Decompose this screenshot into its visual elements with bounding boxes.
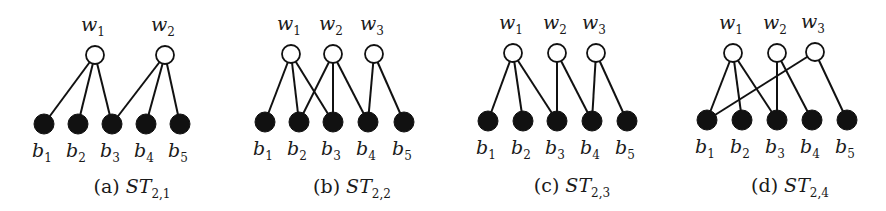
black-node-b1 — [478, 111, 498, 131]
black-node-label: b4 — [356, 137, 376, 163]
bipartite-graph-figure: w1w2b1b2b3b4b5(a) ST2,1 w1w2w3b1b2b3b4b5… — [0, 0, 886, 211]
black-node-label: b4 — [134, 139, 154, 165]
black-node-b5 — [837, 110, 857, 130]
white-node-label: w1 — [81, 13, 105, 39]
black-node-label: b4 — [800, 135, 820, 161]
black-node-b3 — [323, 112, 343, 132]
black-node-label: b5 — [392, 137, 412, 163]
edge-w3-b5 — [374, 54, 404, 122]
white-node-w1 — [724, 44, 742, 62]
black-node-label: b2 — [511, 136, 531, 162]
black-node-b1 — [34, 114, 54, 134]
black-node-b2 — [732, 110, 752, 130]
panel-st-2-3: w1w2w3b1b2b3b4b5(c) ST2,3 — [476, 11, 637, 200]
black-node-b3 — [102, 114, 122, 134]
white-node-label: w2 — [543, 11, 567, 37]
white-node-w2 — [156, 46, 174, 64]
white-node-w2 — [548, 44, 566, 62]
edge-w2-b4 — [333, 54, 368, 122]
black-node-b2 — [68, 114, 88, 134]
edge-w3-b5 — [815, 52, 847, 120]
white-node-w1 — [282, 45, 300, 63]
black-node-label: b1 — [32, 139, 52, 165]
white-node-w3 — [587, 44, 605, 62]
white-node-w3 — [806, 43, 824, 61]
white-node-label: w3 — [801, 10, 825, 36]
black-node-label: b2 — [287, 137, 307, 163]
black-node-b4 — [136, 114, 156, 134]
black-node-b3 — [767, 110, 787, 130]
black-node-b5 — [394, 112, 414, 132]
edge-w3-b5 — [596, 53, 627, 121]
black-node-b1 — [255, 112, 275, 132]
white-node-w2 — [324, 45, 342, 63]
edge-w1-b3 — [95, 55, 112, 124]
white-node-label: w1 — [277, 12, 301, 38]
edge-w1-b1 — [707, 53, 733, 120]
edge-w1-b1 — [488, 53, 513, 121]
black-node-label: b2 — [730, 135, 750, 161]
panel-caption: (a) ST2,1 — [94, 175, 171, 201]
edge-w2-b4 — [146, 55, 165, 124]
white-node-w1 — [504, 44, 522, 62]
black-node-label: b4 — [580, 136, 600, 162]
white-node-label: w3 — [360, 12, 384, 38]
white-node-label: w1 — [499, 11, 523, 37]
white-node-label: w1 — [719, 11, 743, 37]
black-node-b4 — [582, 111, 602, 131]
white-node-w2 — [768, 44, 786, 62]
black-node-b4 — [802, 110, 822, 130]
panel-caption: (c) ST2,3 — [534, 174, 610, 200]
black-node-label: b1 — [253, 137, 273, 163]
black-node-label: b5 — [615, 136, 635, 162]
edge-w1-b1 — [265, 54, 291, 122]
black-node-b2 — [513, 111, 533, 131]
black-node-label: b5 — [835, 135, 855, 161]
black-node-b1 — [697, 110, 717, 130]
panel-caption: (d) ST2,4 — [751, 174, 829, 200]
white-node-label: w2 — [763, 11, 787, 37]
black-node-label: b3 — [545, 136, 565, 162]
black-node-label: b1 — [695, 135, 715, 161]
black-node-b3 — [547, 111, 567, 131]
edge-w3-b1 — [707, 52, 815, 120]
black-node-b4 — [358, 112, 378, 132]
black-node-label: b3 — [100, 139, 120, 165]
black-node-b5 — [170, 114, 190, 134]
panel-st-2-2: w1w2w3b1b2b3b4b5(b) ST2,2 — [253, 12, 414, 201]
white-node-label: w3 — [582, 11, 606, 37]
edge-w2-b5 — [165, 55, 180, 124]
white-node-w1 — [86, 46, 104, 64]
white-node-w3 — [365, 45, 383, 63]
edge-w2-b2 — [299, 54, 333, 122]
panel-st-2-1: w1w2b1b2b3b4b5(a) ST2,1 — [32, 13, 190, 201]
panel-caption: (b) ST2,2 — [313, 175, 391, 201]
edge-w2-b4 — [777, 53, 812, 120]
black-node-label: b3 — [765, 135, 785, 161]
black-node-b5 — [617, 111, 637, 131]
white-node-label: w2 — [319, 12, 343, 38]
edge-w1-b3 — [513, 53, 557, 121]
black-node-label: b5 — [168, 139, 188, 165]
black-node-label: b2 — [66, 139, 86, 165]
black-node-label: b3 — [321, 137, 341, 163]
black-node-b2 — [289, 112, 309, 132]
edge-w2-b3 — [112, 55, 165, 124]
white-node-label: w2 — [151, 13, 175, 39]
black-node-label: b1 — [476, 136, 496, 162]
panel-st-2-4: w1w2w3b1b2b3b4b5(d) ST2,4 — [695, 10, 857, 200]
edge-w2-b4 — [557, 53, 592, 121]
figure: w1w2b1b2b3b4b5(a) ST2,1 w1w2w3b1b2b3b4b5… — [0, 0, 886, 211]
